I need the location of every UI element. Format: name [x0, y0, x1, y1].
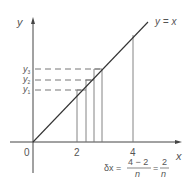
line-label: y = x — [154, 16, 177, 27]
line-y-equals-x — [33, 22, 148, 142]
formula-frac2-den: n — [161, 169, 166, 179]
formula-frac2-num: 2 — [162, 157, 167, 167]
formula-frac1-den: n — [135, 169, 140, 179]
formula-lhs: δx = — [104, 163, 121, 173]
formula-frac1-num: 4 − 2 — [128, 157, 148, 167]
y1-label: y1 — [22, 84, 31, 95]
formula-eq: = — [153, 163, 158, 173]
y-axis-arrow-icon — [31, 17, 35, 24]
formula: δx = 4 − 2 n = 2 n — [104, 157, 169, 179]
x-tick-2: 2 — [74, 147, 80, 158]
x-axis-arrow-icon — [175, 140, 182, 144]
y-axis-label: y — [16, 16, 24, 28]
x-axis-label: x — [175, 150, 182, 162]
diagram-canvas: y x 0 2 4 y = x y3 y2 y1 δx = 4 − 2 n = … — [0, 0, 189, 190]
origin-label: 0 — [24, 147, 30, 158]
